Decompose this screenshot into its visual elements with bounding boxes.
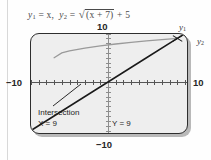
curve-tag-y2-sub: 2 <box>201 40 204 46</box>
calculator-screen: Intersection X = 9 Y = 9 <box>30 33 188 134</box>
readout-x-value: X = 9 <box>38 119 57 128</box>
y2-equals: = <box>67 10 78 20</box>
curve-tag-y1: y1 <box>179 22 186 32</box>
y1-equation-tail: = x, <box>36 10 54 20</box>
curve-tag-y2: y2 <box>197 36 204 46</box>
axis-label-top: 10 <box>97 21 108 32</box>
radical-expression: √(x + 7) <box>78 9 115 20</box>
radicand: (x + 7) <box>85 9 114 20</box>
readout-y-value: Y = 9 <box>112 119 131 128</box>
axis-label-bottom: −10 <box>96 139 112 150</box>
readout-intersection-label: Intersection <box>38 108 79 117</box>
axis-label-right: 10 <box>193 77 204 88</box>
curve-tag-y1-sub: 1 <box>183 26 186 32</box>
axis-label-left: −10 <box>6 77 22 88</box>
figure-root: y1 = x, y2 = √(x + 7) + 5 Intersection X… <box>0 0 211 160</box>
intersection-cursor-icon <box>172 33 183 44</box>
equation-title: y1 = x, y2 = √(x + 7) + 5 <box>28 9 130 20</box>
title-tail: + 5 <box>114 10 130 20</box>
calculator-screen-wrap: Intersection X = 9 Y = 9 <box>30 33 191 137</box>
